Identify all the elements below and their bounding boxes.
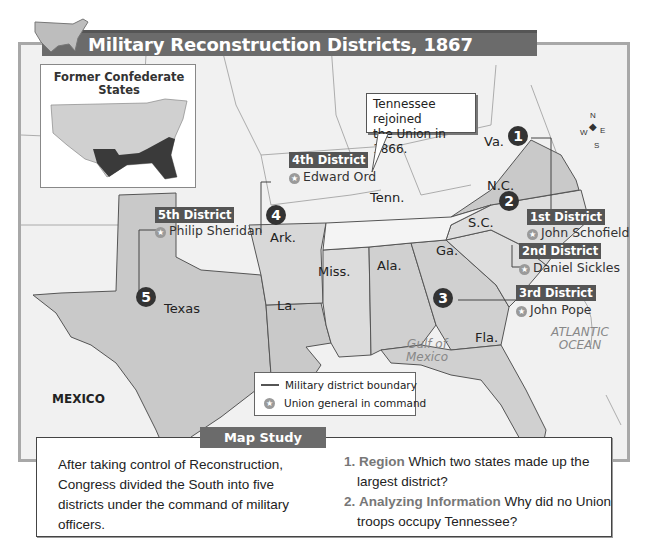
star-icon: ★ xyxy=(519,264,530,275)
map-study-summary: After taking control of Reconstruction, … xyxy=(58,455,318,535)
compass-w: W xyxy=(580,128,588,137)
district-marker-2: 2 xyxy=(499,191,519,211)
label-atlantic-ocean: ATLANTIC OCEAN xyxy=(540,326,620,352)
legend-general-label: Union general in command xyxy=(284,397,426,409)
label-south-carolina: S.C. xyxy=(468,215,494,230)
label-alabama: Ala. xyxy=(377,258,402,273)
general-4: ★Edward Ord xyxy=(289,169,376,184)
tennessee-callout: Tennessee rejoined the Union in 1866. xyxy=(366,93,476,133)
star-icon: ★ xyxy=(289,173,300,184)
general-name-3: John Pope xyxy=(530,302,592,317)
label-florida: Fla. xyxy=(475,330,498,345)
callout-line1: Tennessee rejoined xyxy=(373,97,469,127)
general-name-1: John Schofield xyxy=(541,225,630,240)
label-arkansas: Ark. xyxy=(270,230,296,245)
district-marker-4: 4 xyxy=(266,205,286,225)
inset-map: Former Confederate States xyxy=(40,64,196,188)
compass-arrow-icon: ◆ xyxy=(589,121,597,132)
district-tag-5: 5th District xyxy=(155,207,234,223)
label-mexico: MEXICO xyxy=(52,392,105,406)
inset-title-line2: States xyxy=(41,84,197,97)
district-marker-5: 5 xyxy=(136,287,156,307)
district-tag-2: 2nd District xyxy=(519,243,601,259)
label-gulf-of-mexico: Gulf of Mexico xyxy=(397,338,457,364)
map-title: Military Reconstruction Districts, 1867 xyxy=(88,34,473,55)
general-name-5: Philip Sheridan xyxy=(169,223,262,238)
legend-general: ★ Union general in command xyxy=(261,397,426,409)
label-louisiana: La. xyxy=(277,298,296,313)
atlantic-line2: OCEAN xyxy=(540,339,620,352)
map-legend: Military district boundary ★ Union gener… xyxy=(254,372,416,416)
legend-boundary: Military district boundary xyxy=(261,379,417,391)
gulf-line2: Mexico xyxy=(397,351,457,364)
question-2: 2. Analyzing Information Why did no Unio… xyxy=(344,492,614,532)
general-name-2: Daniel Sickles xyxy=(533,260,620,275)
question-1-label: Region xyxy=(359,454,405,469)
compass-n: N xyxy=(590,111,596,120)
general-1: ★John Schofield xyxy=(527,225,630,240)
question-2-label: Analyzing Information xyxy=(359,494,501,509)
label-georgia: Ga. xyxy=(436,243,458,258)
question-1-number: 1. xyxy=(344,454,355,469)
state-louisiana xyxy=(266,303,331,380)
label-mississippi: Miss. xyxy=(318,264,351,279)
map-study-heading: Map Study xyxy=(200,427,326,448)
compass-e: E xyxy=(600,126,605,135)
compass-s: S xyxy=(594,141,599,150)
general-2: ★Daniel Sickles xyxy=(519,260,620,275)
label-tennessee: Tenn. xyxy=(370,190,404,205)
label-texas: Texas xyxy=(164,301,200,316)
general-3: ★John Pope xyxy=(516,302,592,317)
boundary-line-icon xyxy=(261,384,279,386)
legend-boundary-label: Military district boundary xyxy=(285,379,417,391)
star-icon: ★ xyxy=(516,306,527,317)
general-name-4: Edward Ord xyxy=(303,169,376,184)
inset-title: Former Confederate States xyxy=(41,71,197,97)
star-icon: ★ xyxy=(155,227,166,238)
label-virginia: Va. xyxy=(484,134,504,149)
inset-us-map xyxy=(47,97,191,185)
district-tag-1: 1st District xyxy=(527,209,605,225)
us-map-icon xyxy=(33,16,93,56)
question-2-number: 2. xyxy=(344,494,355,509)
callout-pointer xyxy=(370,134,400,174)
general-5: ★Philip Sheridan xyxy=(155,223,262,238)
question-1: 1. Region Which two states made up the l… xyxy=(344,452,614,492)
map-study-questions: 1. Region Which two states made up the l… xyxy=(344,452,614,532)
district-marker-3: 3 xyxy=(433,288,453,308)
district-tag-4: 4th District xyxy=(289,152,368,168)
district-marker-1: 1 xyxy=(508,126,528,146)
star-icon: ★ xyxy=(527,229,538,240)
star-icon: ★ xyxy=(264,398,275,409)
district-tag-3: 3rd District xyxy=(516,285,596,301)
